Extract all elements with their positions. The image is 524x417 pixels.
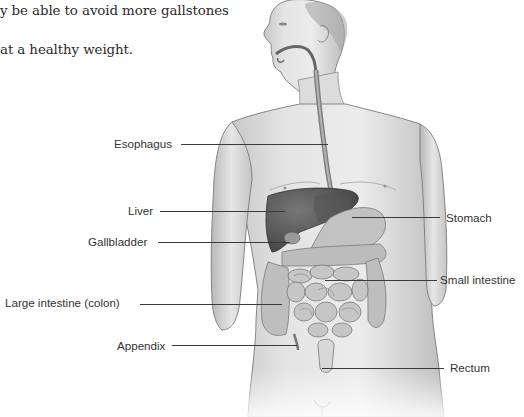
label-stomach: Stomach	[446, 211, 492, 225]
label-appendix: Appendix	[117, 339, 165, 353]
label-rectum: Rectum	[450, 361, 490, 375]
leader-line-esophagus	[181, 144, 328, 145]
leader-line-large-intestine	[140, 304, 282, 305]
label-liver: Liver	[128, 204, 153, 218]
leader-line-appendix	[172, 345, 297, 346]
page: y be able to avoid more gallstones at a …	[0, 0, 524, 417]
anatomy-illustration	[0, 0, 524, 417]
label-small-intestine: Small intestine	[440, 273, 515, 287]
leader-line-liver	[160, 211, 285, 212]
label-gallbladder: Gallbladder	[88, 235, 147, 249]
leader-line-gallbladder	[158, 242, 290, 243]
leader-line-rectum	[322, 368, 444, 369]
leader-line-stomach	[352, 217, 440, 218]
leader-line-small-intestine	[325, 280, 437, 281]
label-esophagus: Esophagus	[114, 137, 172, 151]
label-large-intestine: Large intestine (colon)	[5, 296, 120, 310]
